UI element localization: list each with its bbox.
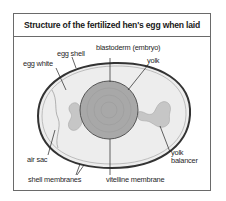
label-shell-membranes: shell membranes — [28, 176, 81, 184]
label-air-sac: air sac — [27, 156, 47, 164]
label-vitelline-membrane: vitelline membrane — [106, 176, 164, 184]
label-egg-white: egg white — [23, 60, 53, 68]
yolk-shape — [80, 81, 138, 139]
label-blastoderm: blastoderm (embryo) — [96, 44, 160, 52]
egg-diagram — [0, 0, 226, 201]
leader-egg-shell — [72, 57, 76, 68]
label-egg-shell: egg shell — [57, 50, 85, 58]
label-yolk-balancer-2: balancer — [171, 157, 198, 165]
label-yolk: yolk — [147, 57, 159, 65]
